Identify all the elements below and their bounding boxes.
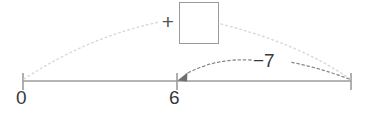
jump-label-minus-seven: −7 [253,51,275,70]
total-jump-arc-right-segment [221,24,350,79]
plus-sign: + [160,11,176,33]
minus-seven-arc-left-segment [186,60,251,74]
number-line-figure: 0 6 + −7 [0,0,372,132]
minus-seven-arc-right-segment [290,62,349,79]
tick-label-6: 6 [169,88,180,107]
total-jump-arc-left-segment [24,22,160,79]
minus-seven-arrowhead-icon [178,73,188,82]
missing-value-input-box[interactable] [179,2,219,44]
tick-label-0: 0 [16,88,27,107]
